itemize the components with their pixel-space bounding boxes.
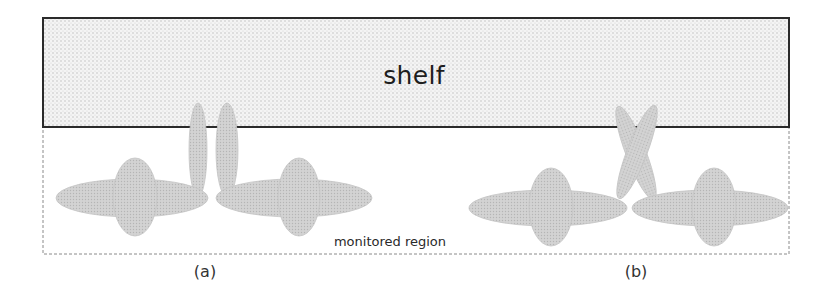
shelf-label: shelf (383, 61, 445, 90)
panel-label-b: (b) (625, 262, 648, 281)
arm-a-1 (189, 103, 207, 197)
arm-a-2 (216, 103, 238, 197)
person-a-1 (56, 158, 208, 236)
person-head (278, 158, 320, 236)
person-head (692, 168, 736, 246)
person-b-1 (469, 168, 627, 246)
panel-label-a: (a) (194, 262, 216, 281)
monitored-region-label: monitored region (334, 234, 446, 249)
person-head (113, 158, 157, 236)
person-head (529, 168, 573, 246)
person-a-2 (216, 158, 372, 236)
person-b-2 (632, 168, 788, 246)
diagram-canvas (0, 0, 827, 299)
